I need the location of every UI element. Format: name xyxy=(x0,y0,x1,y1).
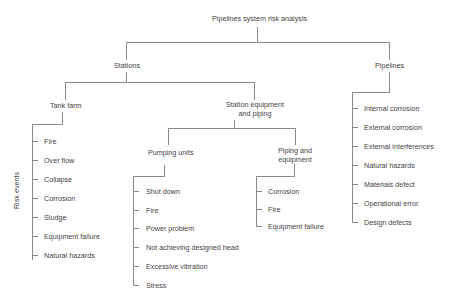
pumping-units-item: Power problem xyxy=(146,224,194,233)
node-station-equipment-line1: Station equipment xyxy=(210,100,300,109)
tank-farm-item: Natural hazards xyxy=(44,251,95,260)
tank-farm-item: Equipment failure xyxy=(44,232,100,241)
connector xyxy=(164,165,165,176)
node-station-equipment: Station equipment and piping xyxy=(210,100,300,118)
pipelines-item: Design defects xyxy=(364,218,412,227)
connector xyxy=(389,42,390,60)
pumping-units-item: Excessive vibration xyxy=(146,262,208,271)
pipelines-item: Materials defect xyxy=(364,180,415,189)
node-station-equipment-line2: and piping xyxy=(210,109,300,118)
pumping-units-item: Shut down xyxy=(146,187,180,196)
connector xyxy=(256,176,295,177)
pipelines-item: External interferences xyxy=(364,142,434,151)
tank-farm-item: Over flow xyxy=(44,156,74,165)
connector xyxy=(257,27,258,43)
piping-equipment-item: Corrosion xyxy=(268,187,299,196)
tank-farm-item: Corrosion xyxy=(44,194,75,203)
tank-farm-item: Sludge xyxy=(44,213,66,222)
node-stations: Stations xyxy=(114,61,140,70)
node-piping-equipment-line1: Piping and xyxy=(260,146,330,155)
connector xyxy=(32,124,33,260)
connector xyxy=(168,128,295,129)
connector xyxy=(65,82,255,83)
pipelines-item: Internal corrosion xyxy=(364,104,420,113)
connector xyxy=(62,112,63,124)
connector xyxy=(133,176,134,286)
pipelines-item: External corrosion xyxy=(364,123,422,132)
connector xyxy=(352,92,390,93)
connector xyxy=(254,82,255,100)
connector xyxy=(168,128,169,145)
connector xyxy=(389,72,390,92)
pipelines-item: Natural hazards xyxy=(364,161,415,170)
pipelines-item: Operational error xyxy=(364,199,418,208)
tank-farm-item: Collapse xyxy=(44,175,72,184)
risk-events-label: Risk events xyxy=(12,172,21,209)
node-piping-equipment-line2: equipment xyxy=(260,155,330,164)
node-piping-equipment: Piping and equipment xyxy=(260,146,330,164)
tank-farm-item: Fire xyxy=(44,137,56,146)
connector xyxy=(32,124,63,125)
pumping-units-item: Stress xyxy=(146,281,166,290)
connector xyxy=(126,42,389,43)
connector xyxy=(295,128,296,145)
piping-equipment-item: Equipment failure xyxy=(268,222,324,231)
connector xyxy=(294,164,295,176)
pumping-units-item: Not achieving designed head xyxy=(146,243,239,252)
connector xyxy=(65,82,66,100)
node-pipelines: Pipelines xyxy=(375,61,404,70)
diagram-title: Pipelines system risk analysis xyxy=(212,14,307,23)
node-pumping-units: Pumping units xyxy=(148,148,194,157)
node-tank-farm: Tank farm xyxy=(50,101,82,110)
connector xyxy=(256,176,257,227)
pumping-units-item: Fire xyxy=(146,206,158,215)
connector xyxy=(133,176,165,177)
piping-equipment-item: Fire xyxy=(268,205,280,214)
connector xyxy=(126,42,127,60)
